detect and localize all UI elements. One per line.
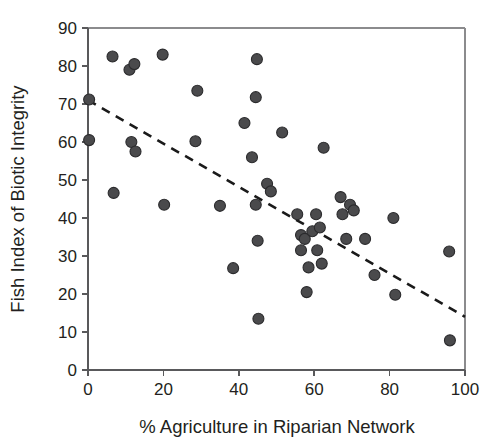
scatter-point <box>84 94 95 105</box>
scatter-point <box>316 258 327 269</box>
scatter-point <box>348 205 359 216</box>
scatter-point <box>444 335 455 346</box>
scatter-point <box>318 142 329 153</box>
x-axis-tick-label: 60 <box>305 380 324 399</box>
y-axis-tick-label: 10 <box>58 323 77 342</box>
scatter-point <box>130 146 141 157</box>
scatter-point <box>228 263 239 274</box>
axis-tick-labels: 0102030405060708090020406080100 <box>58 19 479 399</box>
scatter-point <box>292 209 303 220</box>
scatter-point <box>192 85 203 96</box>
scatter-point <box>444 246 455 257</box>
scatter-point <box>190 136 201 147</box>
scatter-plot-figure: 0102030405060708090020406080100 % Agricu… <box>0 0 495 443</box>
scatter-point <box>253 313 264 324</box>
y-axis-tick-label: 80 <box>58 57 77 76</box>
y-axis-tick-label: 60 <box>58 133 77 152</box>
y-axis-tick-label: 30 <box>58 247 77 266</box>
scatter-point <box>341 233 352 244</box>
scatter-point <box>252 235 263 246</box>
scatter-point <box>277 127 288 138</box>
x-axis-tick-label: 20 <box>154 380 173 399</box>
scatter-point <box>129 59 140 70</box>
scatter-point <box>312 245 323 256</box>
y-axis-tick-label: 90 <box>58 19 77 38</box>
scatter-point <box>314 222 325 233</box>
x-axis-tick-label: 0 <box>83 380 92 399</box>
axis-ticks <box>82 28 465 376</box>
scatter-point <box>250 199 261 210</box>
scatter-point <box>337 209 348 220</box>
scatter-point <box>335 192 346 203</box>
scatter-point <box>265 186 276 197</box>
scatter-point <box>251 54 262 65</box>
y-axis-tick-label: 40 <box>58 209 77 228</box>
x-axis-tick-label: 80 <box>380 380 399 399</box>
chart-canvas: 0102030405060708090020406080100 % Agricu… <box>0 0 495 443</box>
x-axis-tick-label: 100 <box>451 380 479 399</box>
scatter-point <box>360 233 371 244</box>
scatter-point <box>84 135 95 146</box>
y-axis-tick-label: 70 <box>58 95 77 114</box>
scatter-point <box>301 287 312 298</box>
scatter-point <box>390 289 401 300</box>
x-axis-tick-label: 40 <box>229 380 248 399</box>
y-axis-tick-label: 20 <box>58 285 77 304</box>
y-axis-label: Fish Index of Biotic Integrity <box>7 85 28 313</box>
scatter-point <box>239 118 250 129</box>
scatter-point <box>214 200 225 211</box>
scatter-point <box>250 92 261 103</box>
plot-frame <box>88 28 465 370</box>
scatter-point <box>107 51 118 62</box>
scatter-point <box>159 199 170 210</box>
scatter-point <box>108 187 119 198</box>
scatter-point <box>311 209 322 220</box>
x-axis-label: % Agriculture in Riparian Network <box>139 416 415 437</box>
y-axis-tick-label: 0 <box>68 361 77 380</box>
scatter-point <box>388 213 399 224</box>
y-axis-tick-label: 50 <box>58 171 77 190</box>
scatter-point <box>246 152 257 163</box>
scatter-point <box>296 245 307 256</box>
data-points <box>84 49 456 346</box>
scatter-point <box>369 270 380 281</box>
scatter-point <box>303 262 314 273</box>
scatter-point <box>157 49 168 60</box>
